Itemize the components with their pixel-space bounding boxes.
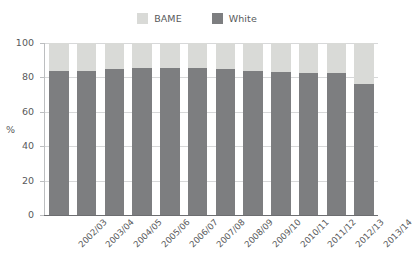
bar-segment-bame[interactable] [132,43,151,68]
bar-segment-white[interactable] [77,71,96,215]
bar-segment-bame[interactable] [243,43,262,71]
bar-segment-bame[interactable] [77,43,96,71]
legend-swatch-white [212,13,223,24]
bar-segment-bame[interactable] [354,43,373,84]
legend-label-white: White [229,13,257,24]
bar-group[interactable] [354,43,373,215]
bar-group[interactable] [299,43,318,215]
chart-legend: BAME White [0,10,394,26]
bar-segment-white[interactable] [105,69,124,215]
bar-group[interactable] [49,43,68,215]
bar-segment-bame[interactable] [299,43,318,73]
x-axis-tick-label: 2012/13 [354,217,386,249]
bar-series-container [45,43,378,215]
bar-segment-bame[interactable] [216,43,235,69]
bar-group[interactable] [132,43,151,215]
legend-label-bame: BAME [154,13,182,24]
bar-group[interactable] [271,43,290,215]
bar-segment-white[interactable] [49,71,68,215]
x-axis-tick-label: 2009/10 [270,217,302,249]
y-axis-tick-label: 100 [0,38,34,48]
bar-segment-white[interactable] [327,73,346,215]
bar-segment-bame[interactable] [271,43,290,72]
x-axis-tick-label: 2010/11 [298,217,330,249]
x-axis-tick-label: 2013/14 [381,217,413,249]
x-axis-tick-label: 2002/03 [76,217,108,249]
bar-group[interactable] [160,43,179,215]
bar-group[interactable] [188,43,207,215]
bar-group[interactable] [77,43,96,215]
bar-segment-bame[interactable] [49,43,68,71]
legend-entry-white: White [212,13,257,24]
y-axis-title: % [6,124,15,135]
x-axis-tick-label: 2006/07 [187,217,219,249]
bar-segment-white[interactable] [243,71,262,215]
bar-segment-white[interactable] [354,84,373,215]
x-axis-tick-label: 2005/06 [159,217,191,249]
x-axis-tick-labels: 2002/032003/042004/052005/062006/072007/… [44,217,378,261]
y-axis-tick-label: 0 [0,210,34,220]
x-axis-tick-label: 2008/09 [243,217,275,249]
bar-group[interactable] [243,43,262,215]
bar-segment-bame[interactable] [105,43,124,69]
y-axis-tick-label: 40 [0,141,34,151]
bar-segment-white[interactable] [188,68,207,215]
x-axis-tick-label: 2004/05 [132,217,164,249]
legend-swatch-bame [137,13,148,24]
bar-group[interactable] [216,43,235,215]
bar-group[interactable] [327,43,346,215]
bar-segment-white[interactable] [132,68,151,215]
x-axis-line [44,215,378,216]
y-axis-tick-label: 20 [0,176,34,186]
legend-entry-bame: BAME [137,13,182,24]
bar-segment-bame[interactable] [160,43,179,68]
bar-segment-white[interactable] [160,68,179,215]
bar-segment-white[interactable] [271,72,290,215]
bar-segment-bame[interactable] [188,43,207,68]
x-axis-tick-label: 2011/12 [326,217,358,249]
bar-segment-bame[interactable] [327,43,346,73]
bar-segment-white[interactable] [299,73,318,215]
x-axis-tick-label: 2007/08 [215,217,247,249]
y-axis-tick-label: 60 [0,107,34,117]
y-axis-tick-label: 80 [0,72,34,82]
bar-group[interactable] [105,43,124,215]
plot-area [44,43,378,216]
bar-segment-white[interactable] [216,69,235,215]
x-axis-tick-label: 2003/04 [104,217,136,249]
